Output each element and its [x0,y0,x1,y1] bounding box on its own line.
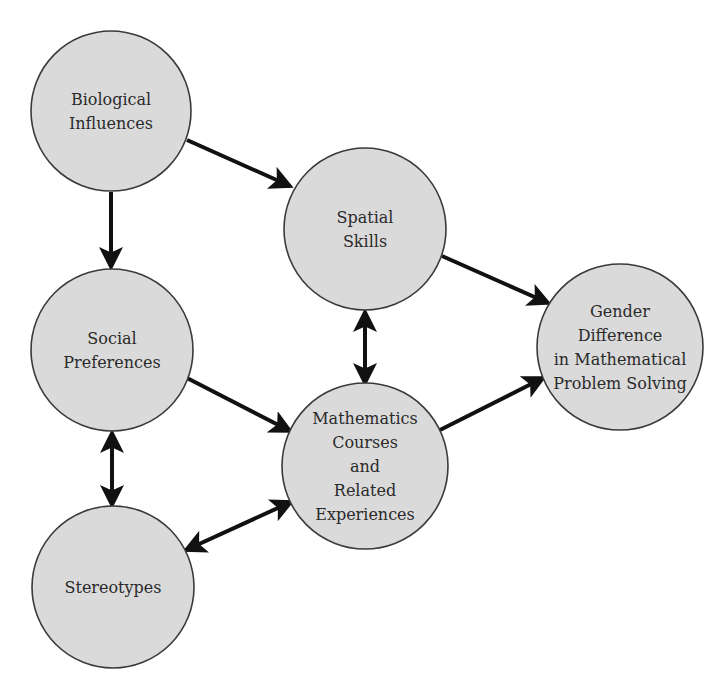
node-label-line: and [350,457,380,476]
causal-diagram: BiologicalInfluencesSpatialSkillsSocialP… [0,0,719,688]
node-label-line: in Mathematical [554,350,687,369]
node-label-line: Stereotypes [65,578,162,597]
node-circle [537,264,703,430]
node-label-line: Difference [578,326,663,345]
node-circle [284,148,446,310]
node-social-preferences: SocialPreferences [31,269,193,431]
node-label-line: Preferences [63,353,160,372]
node-mathematics-courses: MathematicsCoursesandRelatedExperiences [282,383,448,549]
node-label-line: Mathematics [312,409,418,428]
arrow-social-math [187,378,290,431]
node-label-line: Gender [590,302,650,321]
node-gender-difference: GenderDifferencein MathematicalProblem S… [537,264,703,430]
node-circle [31,269,193,431]
double-arrow-stereotypes-math [186,502,291,550]
node-circle [31,31,191,191]
node-label-line: Problem Solving [553,374,687,393]
arrow-math-gender [440,378,543,430]
node-label-line: Related [334,481,396,500]
node-label-line: Biological [71,90,151,109]
node-label-line: Influences [69,114,153,133]
node-label-line: Experiences [315,505,415,524]
node-stereotypes: Stereotypes [32,506,194,668]
node-label-line: Skills [343,232,387,251]
node-label-line: Courses [332,433,398,452]
node-label-line: Spatial [337,208,394,227]
node-spatial-skills: SpatialSkills [284,148,446,310]
arrow-spatial-gender [442,256,548,303]
arrow-biological-spatial [187,140,290,186]
node-biological-influences: BiologicalInfluences [31,31,191,191]
node-label-line: Social [87,329,136,348]
